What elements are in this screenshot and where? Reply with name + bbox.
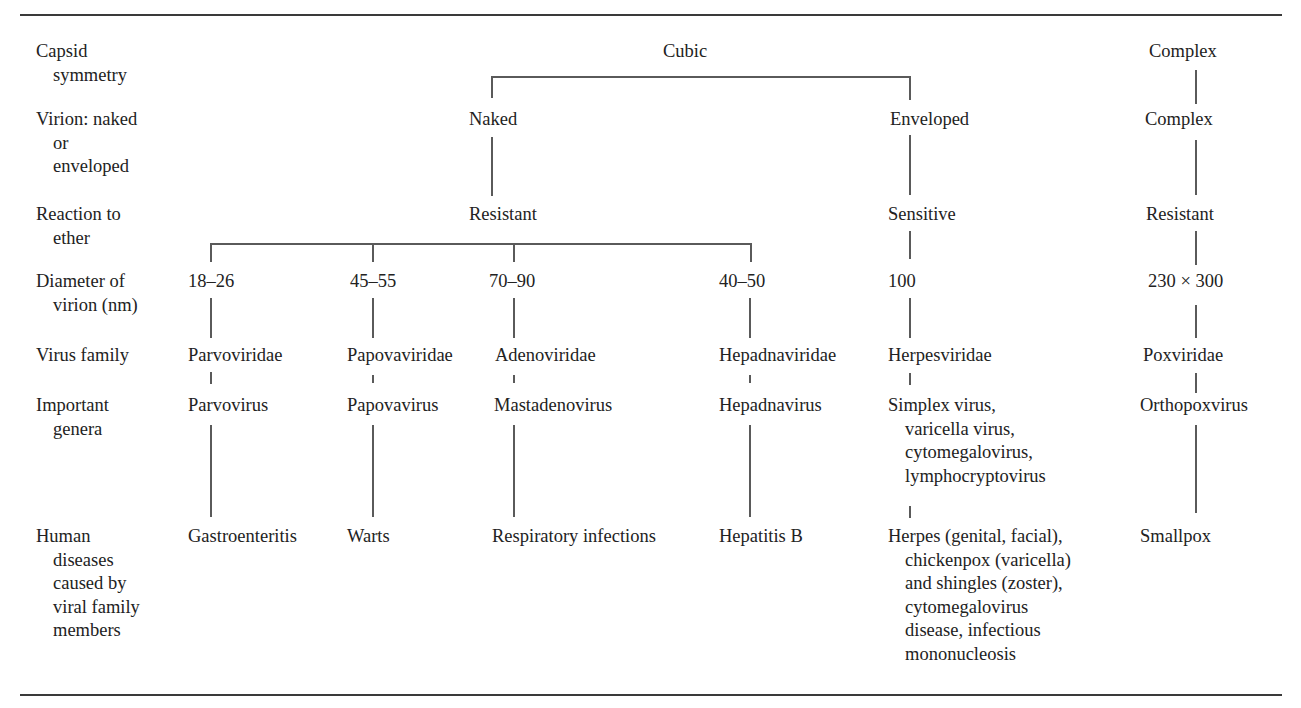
genus-hepadnavirus: Hepadnavirus [719,394,822,418]
connector-f-papova [372,375,374,383]
connector-g-pox [1195,425,1197,513]
connector-g-herpes [909,506,911,518]
label-line: or [36,132,137,156]
connector-f-pox [1195,373,1197,393]
label-line: viral family [36,596,140,620]
disease-line: cytomegalovirus [888,596,1071,620]
connector-d-herpes [909,298,911,338]
row-label-genera: Important genera [36,394,109,441]
connector-adeno [513,243,515,262]
diameter-papova: 45–55 [350,270,396,294]
genus-line: Simplex virus, [888,394,1046,418]
node-naked: Naked [469,108,517,132]
disease-gastroenteritis: Gastroenteritis [188,525,297,549]
node-sensitive: Sensitive [888,203,956,227]
disease-line: chickenpox (varicella) [888,549,1071,573]
family-parvoviridae: Parvoviridae [188,344,283,368]
node-resistant-complex: Resistant [1146,203,1214,227]
label-line: Important [36,394,109,418]
label-line: Reaction to [36,203,121,227]
node-resistant-naked: Resistant [469,203,537,227]
connector-cubic-naked [491,76,493,98]
connector-papova [372,243,374,262]
connector-g-adeno [513,425,515,517]
disease-line: mononucleosis [888,643,1071,667]
row-label-ether: Reaction to ether [36,203,121,250]
label-line: Virion: naked [36,108,137,132]
connector-complex-2 [1195,140,1197,195]
label-line: members [36,619,140,643]
genus-parvovirus: Parvovirus [188,394,268,418]
diameter-parvo: 18–26 [188,270,234,294]
connector-g-parvo [210,425,212,517]
label-line: symmetry [36,64,127,88]
genus-orthopoxvirus: Orthopoxvirus [1140,394,1248,418]
diameter-herpes: 100 [888,270,916,294]
disease-smallpox: Smallpox [1140,525,1211,549]
label-line: genera [36,418,109,442]
genus-line: varicella virus, [888,418,1046,442]
connector-complex-1 [1195,70,1197,104]
diameter-adeno: 70–90 [489,270,535,294]
node-complex-virion: Complex [1145,108,1213,132]
connector-cubic-enveloped [909,76,911,100]
connector-d-adeno [513,298,515,338]
disease-line: Herpes (genital, facial), [888,525,1071,549]
family-herpesviridae: Herpesviridae [888,344,992,368]
disease-warts: Warts [347,525,390,549]
label-line: Virus family [36,344,129,368]
connector-hepadna [750,243,752,262]
connector-d-parvo [210,298,212,338]
connector-g-hepadna [749,425,751,517]
connector-naked-bracket [210,243,752,245]
row-label-virus-family: Virus family [36,344,129,368]
disease-hepatitis-b: Hepatitis B [719,525,803,549]
label-line: caused by [36,572,140,596]
connector-cubic-bracket [491,76,911,78]
connector-naked-resistant [491,137,493,196]
disease-respiratory: Respiratory infections [492,525,656,549]
genus-papovavirus: Papovavirus [347,394,438,418]
family-hepadnaviridae: Hepadnaviridae [719,344,836,368]
disease-line: and shingles (zoster), [888,572,1071,596]
label-line: enveloped [36,155,137,179]
family-adenoviridae: Adenoviridae [495,344,596,368]
diameter-pox: 230 × 300 [1148,270,1223,294]
label-line: ether [36,227,121,251]
connector-parvo [210,243,212,262]
connector-d-papova [372,298,374,338]
row-label-virion: Virion: naked or enveloped [36,108,137,179]
connector-sensitive-100 [909,231,911,259]
family-papovaviridae: Papovaviridae [347,344,453,368]
genera-herpesviridae: Simplex virus, varicella virus, cytomega… [888,394,1046,488]
diseases-herpesviridae: Herpes (genital, facial), chickenpox (va… [888,525,1071,666]
connector-g-papova [372,425,374,517]
connector-enveloped-sensitive [909,135,911,195]
connector-f-parvo [210,372,212,384]
label-line: Human [36,525,140,549]
label-line: diseases [36,549,140,573]
row-label-diseases: Human diseases caused by viral family me… [36,525,140,643]
top-rule [20,14,1282,16]
connector-d-hepadna [749,298,751,338]
node-enveloped: Enveloped [890,108,969,132]
node-cubic: Cubic [663,40,707,64]
connector-f-herpes [909,373,911,385]
node-complex-symmetry: Complex [1149,40,1217,64]
label-line: Diameter of [36,270,138,294]
row-label-diameter: Diameter of virion (nm) [36,270,138,317]
connector-f-hepadna [749,375,751,383]
family-poxviridae: Poxviridae [1143,344,1223,368]
genus-line: cytomegalovirus, [888,441,1046,465]
bottom-rule [20,694,1282,696]
diameter-hepadna: 40–50 [719,270,765,294]
label-line: Capsid [36,40,127,64]
disease-line: disease, infectious [888,619,1071,643]
connector-complex-3 [1195,231,1197,265]
genus-line: lymphocryptovirus [888,465,1046,489]
connector-d-pox [1195,305,1197,338]
connector-f-adeno [513,375,515,383]
row-label-capsid-symmetry: Capsid symmetry [36,40,127,87]
genus-mastadenovirus: Mastadenovirus [494,394,612,418]
label-line: virion (nm) [36,294,138,318]
